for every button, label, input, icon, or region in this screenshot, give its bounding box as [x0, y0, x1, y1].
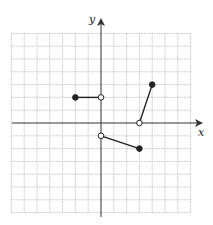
closed-endpoint-icon: [149, 82, 155, 88]
closed-endpoint-icon: [73, 95, 79, 101]
open-endpoint-icon: [137, 120, 143, 126]
piecewise-graph: x y: [0, 0, 213, 225]
axes: x y: [12, 13, 205, 217]
x-axis-label: x: [198, 126, 205, 139]
y-axis-label: y: [88, 13, 96, 26]
open-endpoint-icon: [98, 133, 104, 139]
closed-endpoint-icon: [137, 146, 143, 152]
segment: [139, 85, 152, 123]
open-endpoint-icon: [98, 95, 104, 101]
segment: [101, 136, 139, 149]
